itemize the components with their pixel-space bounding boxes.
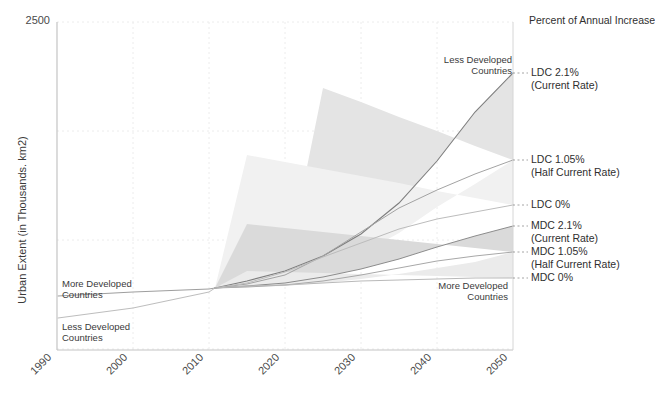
legend-entry-mdc-1-05[interactable]: MDC 1.05% (Half Current Rate) bbox=[531, 245, 620, 270]
legend-ldc-0-line1: LDC 0% bbox=[531, 198, 570, 210]
legend-entry-mdc-0[interactable]: MDC 0% bbox=[531, 271, 573, 283]
legend-entry-ldc-1-05[interactable]: LDC 1.05% (Half Current Rate) bbox=[531, 153, 620, 178]
legend-mdc-1-05-line1: MDC 1.05% bbox=[531, 245, 588, 257]
x-tick-label-2050: 2050 bbox=[484, 351, 510, 377]
y-axis-title: Urban Extent (in Thousands. km2) bbox=[16, 136, 28, 303]
legend-entry-ldc-0[interactable]: LDC 0% bbox=[531, 198, 570, 210]
x-tick-label-2020: 2020 bbox=[256, 351, 282, 377]
anno-mdc-left-line1: More Developed bbox=[62, 278, 132, 289]
anno-mdc-right-line2: Countries bbox=[467, 291, 508, 302]
anno-ldc-left-line1: Less Developed bbox=[62, 321, 130, 332]
urban-extent-projection-chart: 2500 Urban Extent (in Thousands. km2) 19… bbox=[0, 0, 655, 404]
x-tick-label-2000: 2000 bbox=[104, 351, 130, 377]
x-tick-label-2040: 2040 bbox=[408, 351, 434, 377]
anno-ldc-left-line2: Countries bbox=[62, 332, 103, 343]
y-tick-label-2500: 2500 bbox=[26, 14, 50, 26]
legend-ldc-2-1-line1: LDC 2.1% bbox=[531, 66, 579, 78]
legend-ldc-1-05-line2: (Half Current Rate) bbox=[531, 166, 620, 178]
legend-title: Percent of Annual Increase bbox=[529, 14, 655, 26]
legend-mdc-2-1-line1: MDC 2.1% bbox=[531, 219, 582, 231]
legend-mdc-0-line1: MDC 0% bbox=[531, 271, 573, 283]
legend-entry-ldc-2-1[interactable]: LDC 2.1% (Current Rate) bbox=[531, 66, 598, 91]
anno-mdc-left-line2: Countries bbox=[62, 289, 103, 300]
legend-entry-mdc-2-1[interactable]: MDC 2.1% (Current Rate) bbox=[531, 219, 598, 244]
legend-ldc-1-05-line1: LDC 1.05% bbox=[531, 153, 585, 165]
legend-ldc-2-1-line2: (Current Rate) bbox=[531, 79, 598, 91]
anno-ldc-upper-line2: Countries bbox=[471, 65, 512, 76]
chart-svg: 2500 Urban Extent (in Thousands. km2) 19… bbox=[0, 0, 655, 404]
x-tick-label-2030: 2030 bbox=[332, 351, 358, 377]
anno-mdc-right-line1: More Developed bbox=[438, 280, 508, 291]
leader-lines bbox=[513, 73, 528, 278]
legend-mdc-2-1-line2: (Current Rate) bbox=[531, 232, 598, 244]
legend-mdc-1-05-line2: (Half Current Rate) bbox=[531, 258, 620, 270]
anno-ldc-upper-line1: Less Developed bbox=[444, 54, 512, 65]
x-tick-label-1990: 1990 bbox=[28, 351, 54, 377]
x-tick-label-2010: 2010 bbox=[180, 351, 206, 377]
